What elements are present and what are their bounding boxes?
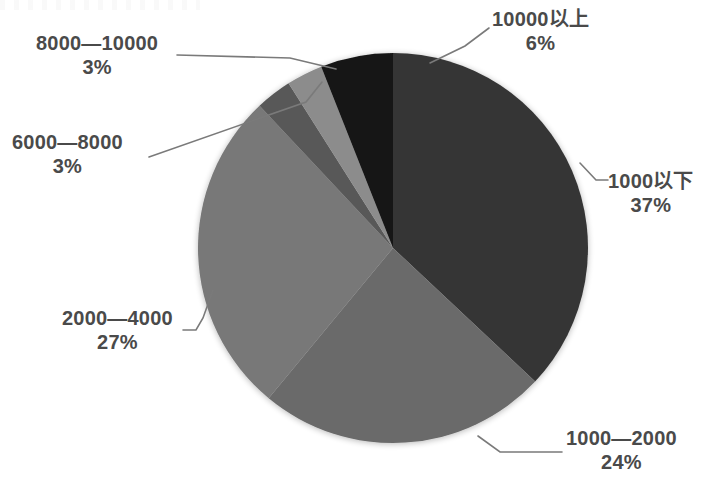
pie-label-6000-8000-name: 6000—8000 [12,131,123,153]
pie-label-1000-down-name: 1000以下 [608,170,694,192]
pie-slices [198,53,588,443]
pie-label-1000-down-pct: 37% [608,194,694,218]
pie-label-2000-4000-pct: 27% [62,331,173,355]
leader-line-1000-down [580,163,608,180]
pie-label-10000-up-pct: 6% [492,32,589,56]
pie-label-1000-2000-name: 1000—2000 [566,427,677,449]
pie-label-6000-8000: 6000—8000 3% [12,131,123,178]
pie-label-1000-2000-pct: 24% [566,451,677,475]
pie-label-2000-4000: 2000—4000 27% [62,307,173,354]
pie-label-10000-up-name: 10000以上 [492,8,589,30]
pie-label-2000-4000-name: 2000—4000 [62,307,173,329]
pie-label-1000-2000: 1000—2000 24% [566,427,677,474]
pie-label-8000-10000-pct: 3% [36,56,158,80]
pie-label-8000-10000: 8000—10000 3% [36,32,158,79]
leader-line-8000-10000 [177,55,336,69]
pie-label-8000-10000-name: 8000—10000 [36,32,158,54]
pie-chart-page: 10000以上 6% 1000以下 37% 1000—2000 24% 2000… [0,0,712,487]
leader-line-10000-up [430,28,489,63]
leader-line-1000-2000 [478,436,562,452]
pie-label-6000-8000-pct: 3% [12,155,123,179]
pie-label-10000-up: 10000以上 6% [492,8,589,55]
pie-label-1000-down: 1000以下 37% [608,170,694,217]
